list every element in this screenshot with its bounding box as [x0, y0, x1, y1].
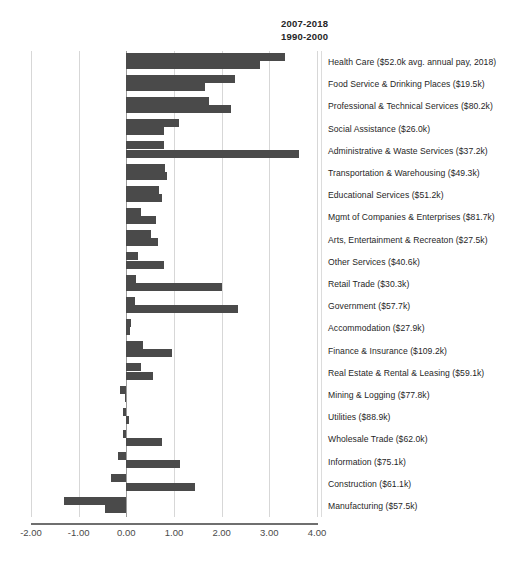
bar	[126, 141, 164, 149]
category-label: Administrative & Waste Services ($37.2k)	[328, 146, 488, 157]
bar	[105, 505, 126, 513]
bar-row	[31, 140, 317, 162]
bar-row	[31, 273, 317, 295]
category-label: Accommodation ($27.9k)	[328, 323, 425, 334]
category-label: Mining & Logging ($77.8k)	[328, 390, 430, 401]
x-axis-line	[31, 523, 318, 525]
bar	[126, 319, 131, 327]
bar	[111, 474, 127, 482]
bar	[126, 150, 299, 158]
bar-row	[31, 229, 317, 251]
bar	[126, 97, 208, 105]
bar	[126, 252, 137, 260]
bar	[126, 53, 285, 61]
bar	[126, 372, 153, 380]
bar	[125, 394, 126, 402]
bar	[126, 83, 205, 91]
x-tick-label: 3.00	[260, 527, 279, 538]
bar-row	[31, 118, 317, 140]
x-tick-label: 1.00	[165, 527, 184, 538]
x-tick-label: -1.00	[68, 527, 90, 538]
bar	[123, 408, 127, 416]
bar	[126, 438, 162, 446]
bar	[126, 275, 136, 283]
bar	[126, 416, 129, 424]
x-axis-tick-labels: -2.00-1.000.001.002.003.004.00	[0, 527, 522, 543]
bar-row	[31, 206, 317, 228]
category-label: Manufacturing ($57.5k)	[328, 501, 417, 512]
bar-row	[31, 406, 317, 428]
bar-row	[31, 384, 317, 406]
bar	[126, 238, 158, 246]
bar	[126, 327, 130, 335]
bar	[123, 430, 126, 438]
bar	[126, 349, 171, 357]
category-label: Social Assistance ($26.0k)	[328, 124, 430, 135]
bar	[126, 186, 158, 194]
bar-chart: 2007-2018 1990-2000 -2.00-1.000.001.002.…	[0, 0, 522, 565]
bar-row	[31, 295, 317, 317]
legend-entry-1990-2000: 1990-2000	[281, 31, 411, 44]
bar-row	[31, 362, 317, 384]
bar-row	[31, 184, 317, 206]
category-label: Finance & Insurance ($109.2k)	[328, 346, 447, 357]
bar	[64, 497, 126, 505]
category-label: Transportation & Warehousing ($49.3k)	[328, 168, 480, 179]
bar	[126, 363, 140, 371]
bar	[126, 208, 140, 216]
bar-row	[31, 317, 317, 339]
legend-entry-2007-2018: 2007-2018	[281, 18, 411, 31]
bar	[118, 452, 127, 460]
category-label: Utilities ($88.9k)	[328, 412, 391, 423]
bar	[126, 61, 259, 69]
bar	[126, 283, 221, 291]
bar	[120, 386, 126, 394]
bar-row	[31, 251, 317, 273]
bar	[126, 261, 163, 269]
chart-legend: 2007-2018 1990-2000	[281, 18, 411, 43]
category-label: Arts, Entertainment & Recreaton ($27.5k)	[328, 235, 488, 246]
plot-area	[31, 51, 317, 517]
bar-rows	[31, 51, 317, 517]
bar	[126, 460, 179, 468]
category-label: Retail Trade ($30.3k)	[328, 279, 409, 290]
bar	[126, 230, 151, 238]
category-label: Food Service & Drinking Places ($19.5k)	[328, 79, 485, 90]
category-label: Mgmt of Companies & Enterprises ($81.7k)	[328, 212, 495, 223]
category-label: Information ($75.1k)	[328, 457, 406, 468]
x-tick-label: 0.00	[117, 527, 136, 538]
category-label: Real Estate & Rental & Leasing ($59.1k)	[328, 368, 484, 379]
category-label: Government ($57.7k)	[328, 301, 410, 312]
bar-row	[31, 428, 317, 450]
x-tick-label: 2.00	[212, 527, 231, 538]
bar	[126, 164, 165, 172]
bar	[126, 75, 235, 83]
category-label: Other Services ($40.6k)	[328, 257, 420, 268]
bar-row	[31, 451, 317, 473]
bar	[126, 119, 178, 127]
bar	[126, 305, 238, 313]
category-label: Educational Services ($51.2k)	[328, 190, 444, 201]
category-label: Health Care ($52.0k avg. annual pay, 201…	[328, 57, 496, 68]
bar-row	[31, 340, 317, 362]
gridline	[317, 51, 318, 517]
category-labels: Health Care ($52.0k avg. annual pay, 201…	[328, 51, 522, 517]
bar-row	[31, 162, 317, 184]
x-tick-label: 4.00	[308, 527, 327, 538]
bar	[126, 127, 164, 135]
bar-row	[31, 73, 317, 95]
bar	[126, 297, 135, 305]
bar	[126, 105, 231, 113]
bar	[126, 483, 195, 491]
bar	[126, 216, 156, 224]
bar	[126, 341, 143, 349]
x-tick-label: -2.00	[20, 527, 42, 538]
category-label: Wholesale Trade ($62.0k)	[328, 434, 428, 445]
category-label: Professional & Technical Services ($80.2…	[328, 101, 493, 112]
bar	[126, 194, 161, 202]
bar-row	[31, 495, 317, 517]
bar-row	[31, 473, 317, 495]
label-divider	[321, 51, 322, 517]
category-label: Construction ($61.1k)	[328, 479, 411, 490]
bar-row	[31, 95, 317, 117]
